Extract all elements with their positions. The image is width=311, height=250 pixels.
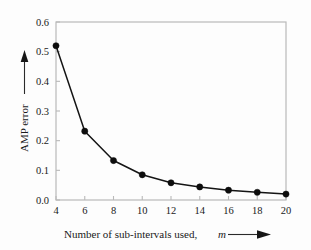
data-point [110, 157, 116, 163]
plot-frame [56, 22, 286, 200]
series-line [56, 46, 286, 194]
x-axis-tick-labels: 468101214161820 [53, 205, 291, 216]
x-tick-label: 4 [53, 205, 59, 216]
y-axis-title: AMP error [18, 104, 30, 152]
y-tick-label: 0.3 [36, 106, 49, 117]
x-axis-title: Number of sub-intervals used, [64, 228, 197, 240]
data-point [139, 172, 145, 178]
data-point [168, 180, 174, 186]
x-axis-title-symbol: m [218, 228, 226, 240]
y-tick-label: 0.2 [36, 135, 49, 146]
x-tick-label: 16 [223, 205, 234, 216]
x-tick-label: 20 [281, 205, 292, 216]
up-arrow-icon [21, 50, 29, 94]
data-point [225, 187, 231, 193]
right-arrow-icon [228, 230, 271, 238]
y-tick-label: 0.1 [36, 165, 49, 176]
x-axis-title-group: Number of sub-intervals used, m [64, 228, 271, 240]
y-tick-label: 0.5 [36, 46, 49, 57]
data-point [82, 128, 88, 134]
y-tick-label: 0.6 [36, 17, 49, 28]
data-point [283, 191, 289, 197]
y-axis-tick-labels: 0.00.10.20.30.40.50.6 [36, 17, 50, 206]
figure-container: 0.00.10.20.30.40.50.6 468101214161820 AM… [0, 0, 311, 250]
y-tick-label: 0.0 [36, 195, 49, 206]
series-markers [53, 43, 289, 198]
chart-canvas: 0.00.10.20.30.40.50.6 468101214161820 AM… [0, 0, 311, 250]
x-axis-tick-marks [56, 196, 286, 200]
data-point [254, 189, 260, 195]
data-series-amp-error [53, 43, 289, 198]
y-axis-title-group: AMP error [18, 50, 30, 152]
x-tick-label: 14 [195, 205, 206, 216]
plot-border [56, 22, 286, 200]
data-point [53, 43, 59, 49]
x-tick-label: 12 [166, 205, 177, 216]
x-tick-label: 18 [252, 205, 263, 216]
y-tick-label: 0.4 [36, 76, 50, 87]
x-tick-label: 8 [111, 205, 116, 216]
x-tick-label: 6 [82, 205, 87, 216]
x-tick-label: 10 [137, 205, 148, 216]
data-point [197, 184, 203, 190]
